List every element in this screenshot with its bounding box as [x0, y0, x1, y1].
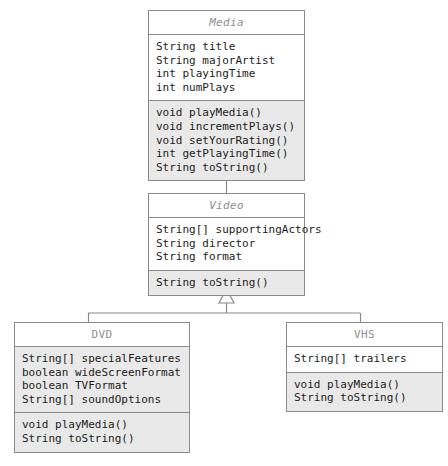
uml-class-name-dvd: DVD	[15, 323, 189, 346]
uml-attribute: String[] soundOptions	[22, 393, 182, 407]
uml-method: void setYourRating()	[156, 134, 297, 148]
uml-attribute: int playingTime	[156, 67, 297, 81]
uml-method: void playMedia()	[294, 378, 435, 392]
uml-attribute: String format	[156, 250, 297, 264]
uml-method: String toString()	[156, 161, 297, 175]
uml-methods-media: void playMedia() void incrementPlays() v…	[149, 100, 304, 180]
uml-class-name-vhs: VHS	[287, 323, 442, 346]
uml-attribute: String director	[156, 237, 297, 251]
uml-attribute: String title	[156, 40, 297, 54]
uml-attribute: int numPlays	[156, 81, 297, 95]
uml-method: String toString()	[156, 276, 297, 290]
uml-method: String toString()	[22, 432, 182, 446]
uml-attributes-dvd: String[] specialFeatures boolean wideScr…	[15, 346, 189, 412]
uml-diagram-canvas: Media String title String majorArtist in…	[0, 0, 448, 466]
uml-attribute: String[] supportingActors	[156, 223, 297, 237]
uml-methods-vhs: void playMedia() String toString()	[287, 372, 442, 411]
uml-attribute: String[] specialFeatures	[22, 352, 182, 366]
uml-attribute: boolean wideScreenFormat	[22, 366, 182, 380]
uml-method: int getPlayingTime()	[156, 147, 297, 161]
uml-attributes-vhs: String[] trailers	[287, 346, 442, 372]
uml-class-dvd[interactable]: DVD String[] specialFeatures boolean wid…	[14, 322, 190, 453]
uml-attribute: String majorArtist	[156, 54, 297, 68]
uml-class-vhs[interactable]: VHS String[] trailers void playMedia() S…	[286, 322, 443, 412]
uml-method: void playMedia()	[156, 106, 297, 120]
uml-class-name-media: Media	[149, 11, 304, 34]
uml-class-name-video: Video	[149, 194, 304, 217]
uml-class-video[interactable]: Video String[] supportingActors String d…	[148, 193, 305, 296]
uml-method: String toString()	[294, 391, 435, 405]
uml-attributes-media: String title String majorArtist int play…	[149, 34, 304, 100]
uml-class-media[interactable]: Media String title String majorArtist in…	[148, 10, 305, 181]
uml-method: void incrementPlays()	[156, 120, 297, 134]
uml-method: void playMedia()	[22, 418, 182, 432]
uml-methods-dvd: void playMedia() String toString()	[15, 412, 189, 451]
uml-methods-video: String toString()	[149, 270, 304, 296]
uml-attribute: boolean TVFormat	[22, 379, 182, 393]
uml-attribute: String[] trailers	[294, 352, 435, 366]
uml-attributes-video: String[] supportingActors String directo…	[149, 217, 304, 270]
